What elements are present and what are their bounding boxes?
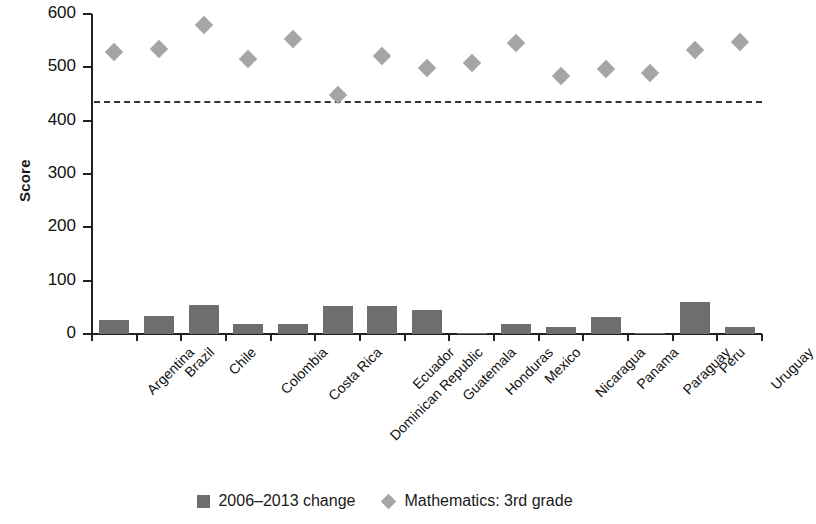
y-tick-label: 0 bbox=[14, 323, 76, 343]
data-point-marker bbox=[150, 40, 168, 58]
bar bbox=[591, 317, 621, 334]
y-tick-label: 200 bbox=[14, 216, 76, 236]
legend-label-change: 2006–2013 change bbox=[218, 492, 355, 510]
bar bbox=[278, 324, 308, 334]
x-tick-mark bbox=[761, 334, 763, 341]
y-tick-mark bbox=[83, 173, 92, 175]
x-tick-mark bbox=[180, 334, 182, 341]
x-tick-mark bbox=[448, 334, 450, 341]
x-tick-mark bbox=[136, 334, 138, 341]
x-axis-label: Costa Rica bbox=[325, 344, 385, 404]
x-tick-mark bbox=[716, 334, 718, 341]
legend-item-mathematics: Mathematics: 3rd grade bbox=[381, 492, 572, 510]
x-tick-mark bbox=[404, 334, 406, 341]
x-tick-mark bbox=[493, 334, 495, 341]
bar bbox=[725, 327, 755, 334]
y-tick-mark bbox=[83, 280, 92, 282]
x-tick-mark bbox=[582, 334, 584, 341]
data-point-marker bbox=[552, 67, 570, 85]
bar bbox=[635, 333, 665, 334]
x-axis-label: Chile bbox=[225, 344, 259, 378]
data-point-marker bbox=[284, 30, 302, 48]
x-axis-label: Colombia bbox=[278, 344, 331, 397]
y-tick-label: 100 bbox=[14, 270, 76, 290]
bar bbox=[680, 302, 710, 334]
y-tick-mark bbox=[83, 120, 92, 122]
bar bbox=[546, 327, 576, 334]
bar bbox=[457, 333, 487, 334]
data-point-marker bbox=[686, 41, 704, 59]
data-point-marker bbox=[641, 63, 659, 81]
legend-label-mathematics: Mathematics: 3rd grade bbox=[404, 492, 572, 510]
data-point-marker bbox=[194, 16, 212, 34]
data-point-marker bbox=[462, 54, 480, 72]
y-tick-mark bbox=[83, 226, 92, 228]
x-tick-mark bbox=[359, 334, 361, 341]
bar bbox=[323, 306, 353, 334]
x-tick-mark bbox=[672, 334, 674, 341]
x-tick-mark bbox=[314, 334, 316, 341]
data-point-marker bbox=[730, 33, 748, 51]
bar bbox=[367, 306, 397, 334]
bar bbox=[99, 320, 129, 334]
y-tick-mark bbox=[83, 66, 92, 68]
diamond-icon bbox=[381, 493, 397, 509]
x-tick-mark bbox=[91, 334, 93, 341]
x-tick-mark bbox=[627, 334, 629, 341]
data-point-marker bbox=[105, 43, 123, 61]
data-point-marker bbox=[373, 47, 391, 65]
y-tick-label: 600 bbox=[14, 3, 76, 23]
x-axis-label: Nicaragua bbox=[592, 344, 648, 400]
legend-item-change: 2006–2013 change bbox=[197, 492, 355, 510]
y-tick-label: 400 bbox=[14, 110, 76, 130]
x-axis-label: Uruguay bbox=[767, 344, 816, 393]
data-point-marker bbox=[418, 59, 436, 77]
bar bbox=[412, 310, 442, 334]
data-point-marker bbox=[507, 34, 525, 52]
data-point-marker bbox=[596, 60, 614, 78]
x-tick-mark bbox=[270, 334, 272, 341]
bar bbox=[501, 324, 531, 334]
square-icon bbox=[197, 495, 210, 508]
x-tick-mark bbox=[225, 334, 227, 341]
chart-legend: 2006–2013 change Mathematics: 3rd grade bbox=[0, 492, 770, 510]
bar bbox=[189, 305, 219, 334]
y-tick-label: 500 bbox=[14, 56, 76, 76]
data-point-marker bbox=[239, 50, 257, 68]
y-tick-label: 300 bbox=[14, 163, 76, 183]
bar bbox=[144, 316, 174, 334]
x-tick-mark bbox=[538, 334, 540, 341]
bar bbox=[233, 324, 263, 334]
y-tick-mark bbox=[83, 13, 92, 15]
reference-line bbox=[94, 101, 762, 103]
